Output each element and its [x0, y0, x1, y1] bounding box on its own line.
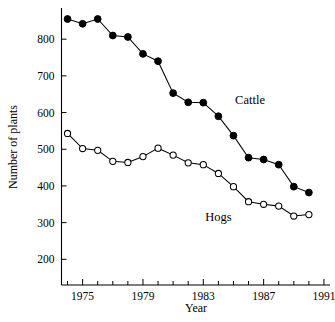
y-tick-label: 400	[37, 180, 55, 192]
y-tick-label: 600	[37, 107, 55, 119]
x-tick-label: 1991	[312, 290, 335, 302]
data-point	[155, 145, 161, 151]
x-axis-ticks	[68, 279, 324, 285]
y-axis: 200300400500600700800	[37, 8, 66, 285]
data-point	[261, 201, 267, 207]
data-point	[140, 50, 147, 57]
chart-figure: 200300400500600700800 197519791983198719…	[0, 0, 335, 322]
data-point	[200, 162, 206, 168]
data-point	[125, 159, 131, 165]
data-point	[260, 156, 267, 163]
data-point	[305, 189, 312, 196]
series-cattle	[64, 16, 312, 196]
data-point	[230, 132, 237, 139]
data-point	[215, 170, 221, 176]
y-tick-label: 300	[37, 217, 55, 229]
y-axis-title: Number of plants	[6, 105, 20, 189]
y-axis-tick-labels: 200300400500600700800	[37, 33, 55, 265]
x-tick-label: 1975	[71, 290, 94, 302]
data-point	[200, 99, 207, 106]
data-point	[64, 16, 71, 23]
series-line-hogs	[68, 133, 309, 216]
data-point	[95, 147, 101, 153]
y-tick-label: 500	[37, 143, 55, 155]
data-point	[80, 145, 86, 151]
series-hogs	[64, 130, 312, 219]
data-point	[140, 153, 146, 159]
y-tick-label: 700	[37, 70, 55, 82]
data-point	[306, 211, 312, 217]
data-point	[215, 113, 222, 120]
data-point	[230, 184, 236, 190]
data-point	[64, 130, 70, 136]
series-layer	[64, 16, 312, 220]
data-point	[79, 20, 86, 27]
x-axis-title: Year	[185, 301, 207, 315]
data-point	[170, 152, 176, 158]
x-axis: 19751979198319871991	[62, 279, 335, 302]
series-label-hogs: Hogs	[205, 210, 232, 224]
y-tick-label: 800	[37, 33, 55, 45]
data-point	[185, 99, 192, 106]
line-chart: 200300400500600700800 197519791983198719…	[0, 0, 335, 322]
x-tick-label: 1987	[252, 290, 275, 302]
x-tick-label: 1979	[131, 290, 154, 302]
y-tick-label: 200	[37, 253, 55, 265]
data-point	[290, 183, 297, 190]
data-point	[291, 213, 297, 219]
data-point	[94, 16, 101, 23]
data-point	[245, 154, 252, 161]
data-point	[170, 90, 177, 97]
y-axis-ticks	[62, 39, 67, 259]
series-label-cattle: Cattle	[235, 93, 265, 107]
data-point	[276, 203, 282, 209]
data-point	[109, 32, 116, 39]
data-point	[185, 160, 191, 166]
data-point	[275, 161, 282, 168]
data-point	[155, 58, 162, 65]
data-point	[110, 158, 116, 164]
data-point	[124, 34, 131, 41]
data-point	[245, 199, 251, 205]
